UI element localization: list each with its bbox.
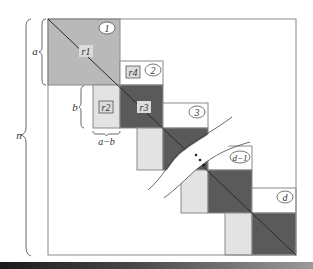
ellipsis-dot-2 [199,159,202,162]
brace-b [79,86,84,128]
block-matrix-diagram: 1 2 3 d−1 d r1 r4 r2 r3 n a b a−b [0,0,313,269]
svg-text:d−1: d−1 [232,153,247,163]
ellipsis-dot-3 [203,164,206,167]
ellipsis-dot-1 [195,154,198,157]
block-number-d: d [277,191,293,203]
svg-text:2: 2 [151,65,156,76]
label-a-minus-b: a−b [98,136,115,147]
block-number-d-minus-1: d−1 [230,151,250,163]
label-b: b [72,101,78,113]
svg-text:r1: r1 [82,46,91,57]
bottom-edge-bar [0,262,313,269]
block-3-light [137,128,163,170]
brace-a [39,19,46,85]
svg-text:3: 3 [194,107,200,118]
block-number-2: 2 [145,64,161,76]
region-r4: r4 [126,66,140,78]
region-r2: r2 [99,101,113,113]
label-n: n [16,129,22,141]
block-number-1: 1 [99,22,115,34]
svg-text:r3: r3 [140,102,149,113]
svg-text:r4: r4 [129,67,138,78]
svg-text:r2: r2 [102,102,111,113]
label-a: a [32,45,38,57]
region-r1: r1 [79,45,93,57]
brace-n [21,19,31,256]
svg-text:1: 1 [105,23,110,34]
region-r3: r3 [137,101,151,113]
block-d-light [225,213,252,255]
block-number-3: 3 [189,106,205,118]
